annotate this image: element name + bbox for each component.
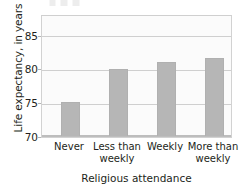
bar-more-than-weekly[interactable] — [205, 58, 224, 137]
cropped-text-artifact — [46, 0, 84, 6]
x-tick-label-more-than-weekly: More than weekly — [185, 141, 241, 164]
x-axis-tick-labels: Never Less than weekly Weekly More than … — [41, 141, 232, 169]
y-tick-label-75: 75 — [16, 98, 38, 108]
bar-never[interactable] — [61, 102, 80, 136]
plot-area — [41, 15, 232, 138]
y-axis-tick-labels: 85 80 75 70 — [12, 0, 38, 195]
y-tick-label-80: 80 — [16, 64, 38, 74]
gridline-80 — [42, 70, 231, 71]
bar-weekly[interactable] — [157, 62, 176, 137]
x-axis-title: Religious attendance — [41, 172, 232, 184]
y-tick-label-85: 85 — [16, 31, 38, 41]
chart-figure: Life expectancy, in years 85 80 75 70 Ne… — [0, 0, 242, 195]
x-tick-label-more-than-weekly-line1: More than — [185, 141, 241, 153]
y-tick-label-70: 70 — [16, 132, 38, 142]
x-tick-label-less-than-weekly-line2: weekly — [89, 153, 145, 165]
gridline-85 — [42, 36, 231, 37]
x-tick-label-more-than-weekly-line2: weekly — [185, 153, 241, 165]
bar-less-than-weekly[interactable] — [109, 69, 128, 136]
